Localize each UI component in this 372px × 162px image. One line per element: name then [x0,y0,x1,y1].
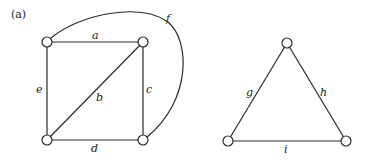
edge-g [228,43,287,141]
vertex-top [282,38,292,48]
edge-label-h: h [320,86,327,99]
edge-label-a: a [92,29,99,42]
vertex-bottom-left [223,136,233,146]
vertex-top-right [138,37,148,47]
edge-label-g: g [246,86,253,99]
figure-label: (a) [11,8,26,21]
vertex-top-left [42,37,52,47]
edge-label-i: i [284,143,288,156]
edge-h [287,43,346,141]
edge-label-d: d [91,142,98,155]
edge-label-c: c [146,83,152,96]
graph-2: g h i [223,38,351,156]
edge-label-e: e [36,83,43,96]
edge-b [47,42,143,140]
edge-label-b: b [96,91,103,104]
vertex-bottom-right [341,136,351,146]
graph-1: a b c d e f [36,12,183,155]
edge-label-f: f [165,12,172,25]
graph-diagram: (a) a b c d e f g h i [0,0,372,162]
vertex-bottom-left [42,135,52,145]
edge-f [51,12,183,137]
vertex-bottom-right [138,135,148,145]
